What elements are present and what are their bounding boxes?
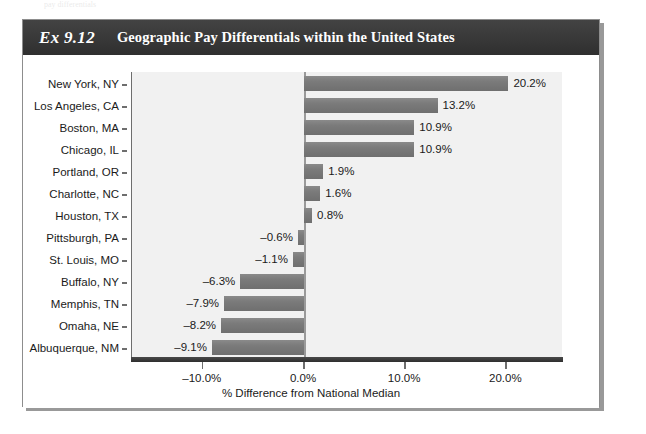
category-label: Albuquerque, NM xyxy=(30,337,120,359)
y-axis-tick xyxy=(122,84,127,86)
y-axis-tick xyxy=(122,128,127,130)
bar-series: 20.2%13.2%10.9%10.9%1.9%1.6%0.8%–0.6%–1.… xyxy=(132,72,562,357)
bar-albuquerque-nm[interactable] xyxy=(212,340,304,355)
category-label: Charlotte, NC xyxy=(49,183,119,205)
category-label: Los Angeles, CA xyxy=(34,95,119,117)
page-top-bleed-text: pay differentials xyxy=(44,0,344,9)
bar-omaha-ne[interactable] xyxy=(221,318,304,333)
bar-row: –6.3% xyxy=(132,271,562,293)
bar-row: 0.8% xyxy=(132,205,562,227)
category-label: Buffalo, NY xyxy=(61,271,119,293)
y-axis-tick xyxy=(122,216,127,218)
bar-value-label: 10.9% xyxy=(419,140,452,158)
bar-value-label: –7.9% xyxy=(186,294,219,312)
exhibit-title: Geographic Pay Differentials within the … xyxy=(117,29,455,46)
exhibit-card: Ex 9.12 Geographic Pay Differentials wit… xyxy=(22,19,600,407)
bar-value-label: 20.2% xyxy=(513,74,546,92)
x-axis-tick-label: 20.0% xyxy=(489,370,522,386)
y-axis-tick xyxy=(122,150,127,152)
x-axis-tick xyxy=(202,362,204,369)
category-label: Omaha, NE xyxy=(59,315,119,337)
x-axis-tick-label: 10.0% xyxy=(388,370,421,386)
category-axis: New York, NYLos Angeles, CABoston, MAChi… xyxy=(23,72,127,357)
bar-pittsburgh-pa[interactable] xyxy=(298,230,304,245)
y-axis-tick xyxy=(122,106,127,108)
bar-houston-tx[interactable] xyxy=(304,208,312,223)
x-axis-line xyxy=(131,357,563,362)
x-axis-tick xyxy=(303,362,305,369)
y-axis-tick xyxy=(122,260,127,262)
bar-value-label: –8.2% xyxy=(183,316,216,334)
bar-row: 20.2% xyxy=(132,73,562,95)
bar-row: 10.9% xyxy=(132,139,562,161)
bar-value-label: 0.8% xyxy=(317,206,343,224)
x-axis-tick-label: 0.0% xyxy=(290,370,316,386)
bar-portland-or[interactable] xyxy=(304,164,323,179)
bar-row: –9.1% xyxy=(132,337,562,359)
bar-value-label: 1.9% xyxy=(328,162,354,180)
category-label: Chicago, IL xyxy=(61,139,119,161)
x-axis-tick-label: –10.0% xyxy=(182,370,221,386)
bar-los-angeles-ca[interactable] xyxy=(304,98,438,113)
category-label: Pittsburgh, PA xyxy=(46,227,119,249)
bar-buffalo-ny[interactable] xyxy=(240,274,304,289)
bar-value-label: –9.1% xyxy=(174,338,207,356)
x-axis-tick xyxy=(505,362,507,369)
x-axis-title: % Difference from National Median xyxy=(23,387,599,399)
bar-row: 1.6% xyxy=(132,183,562,205)
x-axis-tick xyxy=(404,362,406,369)
category-label: Portland, OR xyxy=(53,161,119,183)
plot-area: 20.2%13.2%10.9%10.9%1.9%1.6%0.8%–0.6%–1.… xyxy=(131,72,562,357)
y-axis-tick xyxy=(122,238,127,240)
bar-chicago-il[interactable] xyxy=(304,142,414,157)
category-label: Memphis, TN xyxy=(51,293,119,315)
bar-value-label: –6.3% xyxy=(203,272,236,290)
category-label: Boston, MA xyxy=(60,117,119,139)
bar-value-label: 1.6% xyxy=(325,184,351,202)
y-axis-tick xyxy=(122,194,127,196)
bar-memphis-tn[interactable] xyxy=(224,296,304,311)
category-label: New York, NY xyxy=(48,73,119,95)
bar-row: –0.6% xyxy=(132,227,562,249)
category-label: Houston, TX xyxy=(55,205,119,227)
exhibit-number: Ex 9.12 xyxy=(39,28,95,48)
bar-row: –8.2% xyxy=(132,315,562,337)
bar-value-label: 13.2% xyxy=(443,96,476,114)
bar-row: 10.9% xyxy=(132,117,562,139)
bar-boston-ma[interactable] xyxy=(304,120,414,135)
bar-row: –1.1% xyxy=(132,249,562,271)
bar-value-label: –1.1% xyxy=(255,250,288,268)
y-axis-tick xyxy=(122,282,127,284)
bar-row: 1.9% xyxy=(132,161,562,183)
chart-body: New York, NYLos Angeles, CABoston, MAChi… xyxy=(23,55,599,408)
bar-row: –7.9% xyxy=(132,293,562,315)
bar-row: 13.2% xyxy=(132,95,562,117)
bar-st-louis-mo[interactable] xyxy=(293,252,304,267)
bar-new-york-ny[interactable] xyxy=(304,76,508,91)
bar-value-label: –0.6% xyxy=(260,228,293,246)
y-axis-tick xyxy=(122,348,127,350)
category-label: St. Louis, MO xyxy=(49,249,119,271)
y-axis-tick xyxy=(122,172,127,174)
bar-value-label: 10.9% xyxy=(419,118,452,136)
bar-charlotte-nc[interactable] xyxy=(304,186,320,201)
exhibit-header: Ex 9.12 Geographic Pay Differentials wit… xyxy=(23,20,599,55)
y-axis-tick xyxy=(122,304,127,306)
y-axis-tick xyxy=(122,326,127,328)
